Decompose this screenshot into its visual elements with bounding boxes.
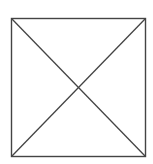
crossed-square-diagram	[0, 0, 153, 164]
